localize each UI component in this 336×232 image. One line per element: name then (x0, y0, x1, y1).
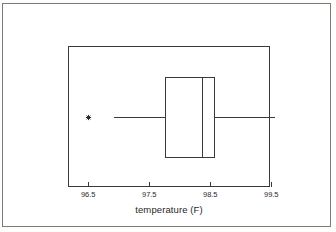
boxplot-figure: 96.597.598.599.5 temperature (F) (0, 0, 336, 232)
x-tick-label: 97.5 (142, 190, 156, 199)
x-tick-label: 98.5 (203, 190, 217, 199)
x-tick-label: 96.5 (81, 190, 95, 199)
plot-frame (68, 46, 270, 187)
x-axis-title: temperature (F) (68, 204, 270, 215)
x-tick-label: 99.5 (264, 190, 278, 199)
